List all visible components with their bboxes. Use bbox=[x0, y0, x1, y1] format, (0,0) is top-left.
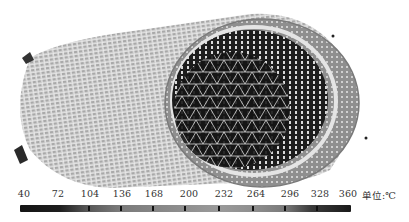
colorbar-tick: 104 bbox=[81, 188, 100, 199]
colorbar-tick: 296 bbox=[281, 188, 300, 199]
tube-temperature-contour bbox=[0, 0, 409, 190]
colorbar-unit-label: 单位:℃ bbox=[362, 188, 396, 202]
tube-mesh-render bbox=[0, 0, 409, 190]
colorbar-tick: 360 bbox=[339, 188, 358, 199]
colorbar-tick: 40 bbox=[18, 188, 31, 199]
colorbar-tick: 232 bbox=[215, 188, 234, 199]
colorbar-tick: 328 bbox=[311, 188, 330, 199]
colorbar-tick: 72 bbox=[52, 188, 65, 199]
colorbar-tick: 264 bbox=[247, 188, 266, 199]
colorbar-tick: 168 bbox=[145, 188, 164, 199]
colorbar-gradient bbox=[20, 205, 351, 212]
colorbar-ticks: 40 72 104 136 168 200 232 264 296 328 36… bbox=[0, 188, 409, 202]
colorbar-tick: 136 bbox=[113, 188, 132, 199]
colorbar-legend: 40 72 104 136 168 200 232 264 296 328 36… bbox=[0, 188, 409, 222]
colorbar-tick: 200 bbox=[180, 188, 199, 199]
